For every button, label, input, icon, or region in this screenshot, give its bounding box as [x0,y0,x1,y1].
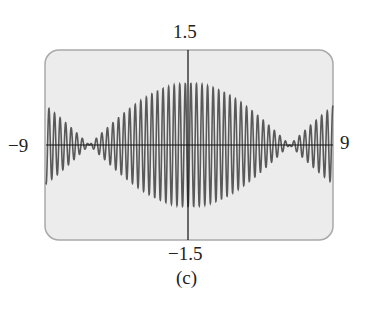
x-max-tick-label: 9 [340,133,350,152]
figure-caption: (c) [176,268,197,287]
chart-figure: 1.5 −1.5 −9 9 (c) [0,0,365,315]
y-min-tick-label: −1.5 [168,244,202,263]
y-max-tick-label: 1.5 [173,22,197,41]
x-min-tick-label: −9 [8,136,28,155]
